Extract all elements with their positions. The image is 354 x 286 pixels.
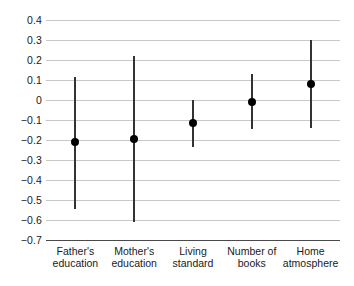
chart-container: 0.40.30.20.10−0.1−0.2−0.3−0.4−0.5−0.6−0.… [0, 0, 354, 286]
data-point-marker [307, 80, 315, 88]
gridline-neg0p6 [46, 220, 340, 221]
y-tick-label: −0.7 [2, 235, 42, 246]
x-tick-label-line: Number of [227, 245, 276, 257]
y-tick-label: −0.2 [2, 135, 42, 146]
y-tick-label: −0.5 [2, 195, 42, 206]
gridline-neg0p5 [46, 200, 340, 201]
plot-area [46, 20, 340, 240]
x-tick-label-line: Living [179, 245, 206, 257]
y-tick-label: 0.4 [2, 15, 42, 26]
x-tick-label-line: Father's [57, 245, 95, 257]
y-tick-label: 0 [2, 95, 42, 106]
data-point-marker [71, 138, 79, 146]
gridline-neg0p7 [46, 240, 340, 241]
y-tick-label: −0.6 [2, 215, 42, 226]
x-tick-label: Homeatmosphere [274, 245, 348, 269]
y-tick-label: −0.1 [2, 115, 42, 126]
data-point-marker [248, 98, 256, 106]
gridline-0p2 [46, 60, 340, 61]
gridline-neg0p3 [46, 160, 340, 161]
gridline-0p3 [46, 40, 340, 41]
y-tick-label: −0.3 [2, 155, 42, 166]
y-tick-label: 0.1 [2, 75, 42, 86]
data-point-marker [130, 135, 138, 143]
y-tick-label: −0.4 [2, 175, 42, 186]
x-tick-label-line: Mother's [114, 245, 154, 257]
gridline-neg0p4 [46, 180, 340, 181]
y-tick-label: 0.3 [2, 35, 42, 46]
data-point-marker [189, 119, 197, 127]
y-tick-label: 0.2 [2, 55, 42, 66]
x-tick-label-line: atmosphere [274, 257, 348, 269]
gridline-0p1 [46, 80, 340, 81]
gridline-0p4 [46, 20, 340, 21]
x-tick-label-line: Home [297, 245, 325, 257]
